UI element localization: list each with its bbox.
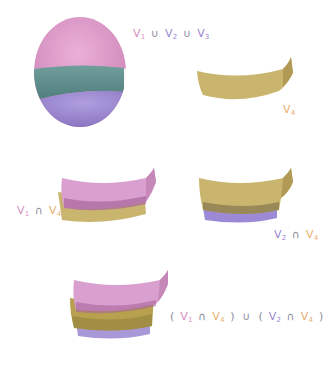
label-v1-intersect-v4: V1 ∩ V4 <box>17 204 61 218</box>
union-of-intersections-figure <box>66 270 170 350</box>
v1-intersect-v4-figure <box>52 168 162 234</box>
label-union-of-intersections: ( V1 ∩ V4 ) ∪ ( V2 ∩ V4 ) <box>168 310 325 324</box>
sphere-figure <box>28 12 138 130</box>
label-v2-intersect-v4: V2 ∩ V4 <box>274 228 318 242</box>
label-v4: V4 <box>283 103 295 117</box>
label-v1-union-v2-union-v3: V1 ∪ V2 ∪ V3 <box>133 27 210 41</box>
v2-intersect-v4-figure <box>195 168 295 228</box>
v4-band-figure <box>195 55 295 107</box>
v4-band <box>197 57 293 99</box>
sphere-v1-v2-v3 <box>28 12 138 130</box>
